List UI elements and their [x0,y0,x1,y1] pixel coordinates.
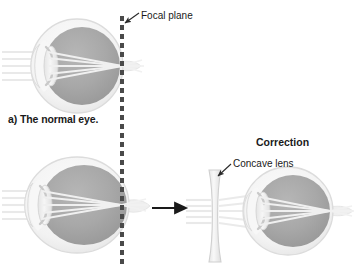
figure-container: Focal plane a) The normal eye. Correctio… [0,0,356,269]
focal-plane-label: Focal plane [141,10,193,21]
eye-diagram-svg [0,0,356,269]
corrected-eye-incoming-rays [186,200,212,223]
focal-plane-leader-line [125,13,139,23]
myopic-eye-group [2,157,150,253]
caption-normal-eye: a) The normal eye. [8,113,98,125]
concave-lens-label: Concave lens [233,158,294,169]
correction-heading: Correction [256,136,309,148]
